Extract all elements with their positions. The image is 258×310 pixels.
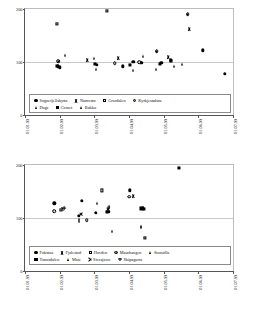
marker-circle-dot: [113, 61, 117, 65]
legend-marker: [65, 258, 71, 261]
marker-circle-dot: [85, 218, 89, 222]
data-point: [96, 202, 98, 205]
data-point: [142, 54, 144, 57]
data-point: [55, 22, 58, 25]
x-tick-label: 01.04.99: [128, 275, 133, 290]
data-point: [188, 27, 192, 31]
marker-x: [60, 251, 64, 255]
legend-marker: [132, 99, 138, 103]
data-point: [116, 56, 120, 60]
data-point: [56, 60, 60, 64]
marker-filled-triangle: [155, 68, 157, 71]
legend-label: Grasdalen: [108, 98, 125, 103]
legend-label: Bakko: [85, 105, 96, 110]
data-point: [86, 58, 90, 62]
x-tick-mark: [94, 115, 95, 118]
marker-open-square: [106, 9, 109, 12]
legend-label: Namvatn: [80, 98, 96, 103]
marker-filled-triangle: [93, 56, 95, 59]
x-tick-mark: [25, 271, 26, 274]
marker-filled-triangle: [96, 202, 98, 205]
marker-open-square: [103, 99, 106, 102]
marker-filled-triangle: [132, 68, 134, 71]
data-point: [80, 199, 83, 202]
marker-filled-triangle: [142, 54, 144, 57]
legend-label: Tunnsdalen: [40, 257, 60, 262]
data-point: [121, 65, 124, 68]
data-point: [223, 72, 226, 75]
data-point: [95, 68, 97, 71]
data-point: [106, 9, 109, 12]
legend-marker: [87, 251, 93, 254]
legend-item[interactable]: Fokstua: [33, 250, 53, 255]
marker-plus: [107, 205, 111, 209]
legend-item[interactable]: Kyrkjestølane: [132, 98, 163, 103]
data-point: [85, 218, 89, 222]
marker-filled-triangle: [80, 106, 82, 109]
legend-item[interactable]: Siccajavre: [87, 257, 111, 262]
legend-marker: [113, 251, 119, 255]
x-tick-mark: [233, 115, 234, 118]
x-tick-mark: [164, 271, 165, 274]
data-point: [173, 65, 175, 68]
x-tick-label: 01.01.99: [24, 275, 29, 290]
x-tick-mark: [233, 271, 234, 274]
data-point: [169, 59, 172, 62]
legend-item[interactable]: Maurhaugen: [113, 250, 141, 255]
x-tick-label: 01.04.99: [128, 119, 133, 134]
legend-marker: [117, 258, 123, 262]
marker-plus: [118, 258, 122, 262]
marker-filled-square: [34, 258, 37, 261]
legend-item[interactable]: Grasdalen: [102, 98, 126, 103]
marker-circle-dot: [52, 209, 56, 213]
y-tick-mark: [23, 165, 25, 166]
marker-filled-triangle: [95, 68, 97, 71]
legend-item[interactable]: Masi: [65, 257, 80, 262]
legend-item[interactable]: Fjalestad: [59, 250, 81, 255]
legend-item[interactable]: Sognefjellshytta: [33, 98, 67, 103]
reference-gridline: [25, 218, 233, 219]
legend-item[interactable]: Dugr: [33, 105, 48, 110]
x-tick-label: 01.06.99: [197, 275, 202, 290]
legend-marker: [147, 251, 153, 254]
legend-label: Kyrkjestølane: [138, 98, 162, 103]
marker-filled-circle: [80, 199, 83, 202]
marker-filled-triangle: [35, 106, 37, 109]
marker-filled-circle: [34, 99, 37, 102]
marker-filled-square: [169, 59, 172, 62]
data-point: [181, 63, 183, 66]
marker-filled-circle: [131, 60, 134, 63]
x-tick-label: 01.06.99: [197, 119, 202, 134]
marker-x: [167, 55, 171, 59]
legend-item[interactable]: Namvatn: [73, 98, 95, 103]
legend-item[interactable]: Bakko: [78, 105, 96, 110]
legend-item[interactable]: Tunnsdalen: [33, 257, 59, 262]
legend-marker: [87, 258, 93, 262]
data-point: [128, 189, 131, 192]
marker-filled-square: [142, 207, 145, 210]
data-point: [140, 226, 142, 229]
x-tick-label: 01.05.99: [163, 275, 168, 290]
x-tick-mark: [198, 115, 199, 118]
data-point: [107, 205, 111, 209]
marker-filled-triangle: [173, 65, 175, 68]
data-point: [140, 61, 142, 64]
marker-filled-square: [93, 63, 96, 66]
data-point: [131, 60, 134, 63]
data-point: [59, 66, 61, 69]
marker-filled-triangle: [59, 66, 61, 69]
legend-item[interactable]: Groset: [54, 105, 72, 110]
data-point: [93, 63, 96, 66]
legend-marker: [54, 106, 60, 109]
x-tick-label: 01.02.99: [59, 119, 64, 134]
marker-x: [188, 27, 192, 31]
marker-filled-circle: [201, 49, 204, 52]
legend-item[interactable]: Storsölla: [147, 250, 169, 255]
legend-item[interactable]: Skipagurra: [117, 257, 142, 262]
legend-item[interactable]: Hovden: [87, 250, 107, 255]
marker-plus-diagonal: [79, 212, 83, 216]
marker-x: [75, 99, 79, 103]
marker-filled-square: [158, 62, 161, 65]
data-point: [142, 207, 145, 210]
x-tick-label: 01.01.99: [24, 119, 29, 134]
